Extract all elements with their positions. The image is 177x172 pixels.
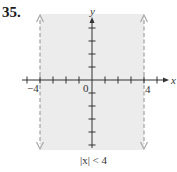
inequality-caption: |x| < 4 — [0, 154, 177, 166]
inequality-graph: y x 0 −4 4 — [0, 0, 177, 172]
arrow-right-icon — [163, 78, 169, 83]
origin-label: 0 — [83, 82, 89, 94]
right-bound-label: 4 — [145, 83, 151, 95]
left-bound-label: −4 — [27, 82, 39, 94]
x-axis-label: x — [170, 74, 176, 86]
y-axis-label: y — [89, 5, 95, 17]
